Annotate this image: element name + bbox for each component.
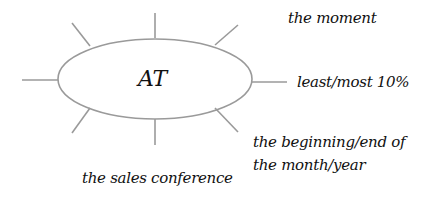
spider-diagram: AT the moment least/most 10% the beginni… [0, 0, 437, 205]
ray-top-right [215, 25, 238, 45]
label-beginning-end: the beginning/end of the month/year [253, 131, 433, 177]
label-least-most: least/most 10% [297, 73, 409, 91]
label-the-moment: the moment [288, 9, 376, 27]
center-label: AT [138, 66, 167, 91]
ray-bottom-right [215, 108, 238, 132]
ray-top-left [72, 23, 90, 46]
ray-bottom-left [72, 108, 90, 133]
label-sales-conference: the sales conference [82, 169, 233, 187]
